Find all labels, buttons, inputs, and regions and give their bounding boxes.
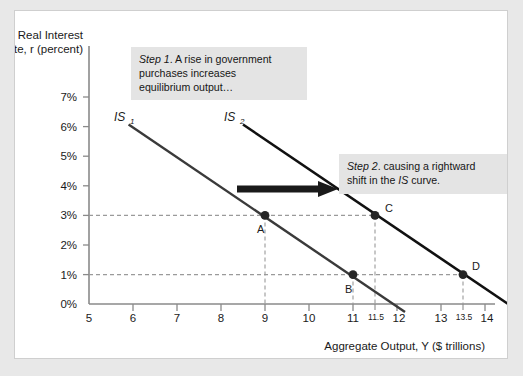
step2-line1: Step 2. causing a rightward	[347, 160, 475, 172]
x-axis-title: Aggregate Output, Y ($ trillions)	[324, 340, 485, 352]
y-tick-label-3: 3%	[60, 209, 77, 221]
step2-line2-emphasis: IS	[398, 174, 408, 186]
y-tick-label-7: 7%	[60, 91, 77, 103]
y-tick-label-1: 1%	[60, 269, 77, 281]
point-label-a: A	[257, 223, 265, 235]
step2-line2-b: curve.	[408, 174, 440, 186]
step1-annotation: Step 1. A rise in government purchases i…	[131, 47, 307, 100]
x-tick-label-12: 12	[393, 312, 406, 324]
y-tick-label-0: 0%	[60, 298, 77, 310]
y-tick-label-4: 4%	[60, 180, 77, 192]
x-tick-label-8: 8	[218, 312, 224, 324]
x-tick-label-7: 7	[174, 312, 180, 324]
is2-label-subscript: 2	[239, 117, 245, 126]
point-label-c: C	[385, 202, 393, 214]
y-tick-label-2: 2%	[60, 239, 77, 251]
x-tick-label-9: 9	[262, 312, 268, 324]
figure-root: Real Interest Rate, r (percent) 7% 6% 5%…	[0, 0, 523, 376]
equilibrium-points: A B C D	[257, 202, 480, 295]
rightward-shift-arrow	[237, 181, 338, 197]
step1-line1: Step 1. A rise in government	[139, 53, 272, 65]
point-label-d: D	[472, 260, 480, 272]
guide-lines	[89, 215, 463, 304]
x-tick-label-13-5: 13.5	[456, 312, 473, 322]
x-tick-label-6: 6	[130, 312, 136, 324]
is1-label-subscript: 1	[130, 117, 134, 126]
is2-curve-label: IS 2	[224, 110, 245, 126]
is1-curve-label: IS 1	[114, 110, 134, 126]
step1-line1-rest: . A rise in government	[170, 53, 272, 65]
x-tick-label-13: 13	[435, 312, 448, 324]
is1-label-text: IS	[114, 110, 125, 124]
y-axis-ticks: 7% 6% 5% 4% 3% 2% 1% 0%	[60, 91, 89, 310]
step2-line2-a: shift in the	[347, 174, 398, 186]
point-label-b: B	[345, 283, 352, 295]
x-tick-label-10: 10	[303, 312, 316, 324]
y-tick-label-6: 6%	[60, 121, 77, 133]
is2-label-text: IS	[224, 110, 235, 124]
step2-line1-rest: . causing a rightward	[378, 160, 476, 172]
step1-line2: purchases increases	[139, 67, 236, 79]
y-axis-title-line2: Rate, r (percent)	[15, 43, 83, 55]
step1-line1-emphasis: Step 1	[139, 53, 170, 65]
is-curve-chart: Real Interest Rate, r (percent) 7% 6% 5%…	[15, 11, 507, 358]
x-tick-label-14: 14	[481, 312, 494, 324]
point-marker-b	[349, 270, 358, 279]
step1-line3: equilibrium output…	[139, 81, 233, 93]
figure-panel: Real Interest Rate, r (percent) 7% 6% 5%…	[14, 10, 508, 359]
x-tick-label-11-5: 11.5	[368, 312, 384, 322]
point-marker-a	[261, 211, 270, 220]
step2-annotation: Step 2. causing a rightward shift in the…	[339, 154, 507, 194]
point-marker-d	[459, 270, 468, 279]
step2-line1-emphasis: Step 2	[347, 160, 378, 172]
x-tick-label-11: 11	[347, 312, 359, 324]
y-axis-title-line1: Real Interest	[18, 29, 84, 41]
y-tick-label-5: 5%	[60, 150, 77, 162]
x-axis-ticks: 5 6 7 8 9 10 11 11.5 12 13	[86, 304, 494, 324]
x-tick-label-5: 5	[86, 312, 92, 324]
point-marker-c	[371, 211, 380, 220]
step2-line2: shift in the IS curve.	[347, 174, 440, 186]
